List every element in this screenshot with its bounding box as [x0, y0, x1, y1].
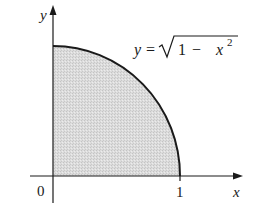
x-axis-label: x — [232, 184, 240, 200]
origin-label: 0 — [37, 183, 45, 199]
equation-one: 1 — [178, 41, 186, 58]
equation-var-x: x — [215, 41, 223, 58]
x-tick-label-1: 1 — [176, 184, 184, 200]
equation-lhs: y — [132, 41, 142, 59]
equation-minus: − — [192, 41, 201, 58]
curve-equation: y = 1 − x 2 — [132, 36, 238, 59]
y-axis-label: y — [38, 7, 47, 23]
equation-exponent: 2 — [227, 36, 233, 48]
x-axis-arrow-icon — [233, 173, 243, 180]
figure-canvas: y 0 1 x y = 1 − x 2 — [0, 0, 255, 206]
equation-equals: = — [146, 41, 155, 58]
shaded-region — [53, 46, 180, 176]
y-axis-arrow-icon — [50, 5, 57, 15]
